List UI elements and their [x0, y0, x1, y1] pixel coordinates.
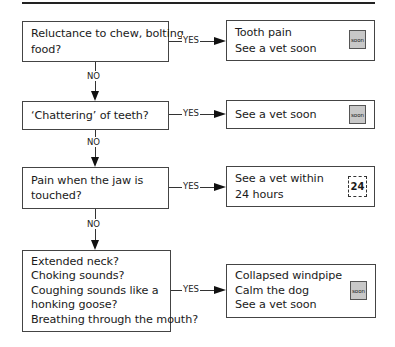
question-text: touched? [31, 188, 168, 204]
yes-label: YES [182, 108, 200, 118]
arrow-down-icon [91, 240, 99, 250]
question-text: Extended neck? [31, 255, 170, 270]
question-text: honking goose? [31, 298, 170, 313]
arrow-right-icon [214, 37, 226, 45]
soon-icon: soon [350, 281, 367, 300]
question-box-1: Reluctance to chew, bolting food? [22, 21, 169, 62]
arrow-right-icon [214, 286, 226, 294]
arrow-down-icon [91, 91, 99, 101]
question-box-4: Extended neck? Choking sounds? Coughing … [22, 250, 171, 332]
arrow-right-icon [214, 183, 226, 191]
no-label: NO [86, 219, 101, 229]
24-hours-icon: 24 [348, 176, 367, 197]
question-text: Pain when the jaw is [31, 173, 168, 189]
yes-label: YES [182, 284, 200, 294]
arrow-right-icon [214, 110, 226, 118]
top-rule [22, 2, 375, 4]
no-label: NO [86, 137, 101, 147]
question-box-2: ‘Chattering’ of teeth? [22, 101, 169, 130]
no-label: NO [86, 71, 101, 81]
outcome-text: See a vet soon [235, 298, 375, 313]
question-text: Reluctance to chew, bolting [31, 26, 168, 42]
question-text: food? [31, 42, 168, 58]
arrow-down-icon [91, 157, 99, 167]
question-text: Choking sounds? [31, 269, 170, 284]
soon-icon: soon [349, 30, 366, 49]
yes-label: YES [182, 35, 200, 45]
question-text: ‘Chattering’ of teeth? [31, 108, 168, 124]
question-text: Coughing sounds like a [31, 284, 170, 299]
question-text: Breathing through the mouth? [31, 313, 170, 328]
soon-icon: soon [349, 105, 366, 124]
question-box-3: Pain when the jaw is touched? [22, 167, 169, 209]
yes-label: YES [182, 181, 200, 191]
